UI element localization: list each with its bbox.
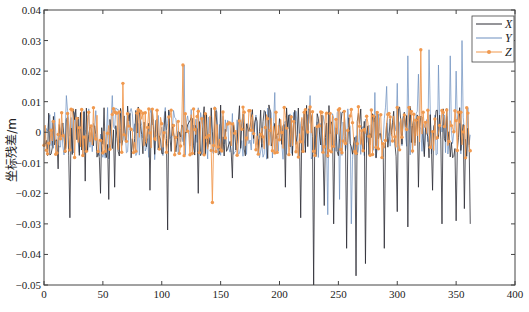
y-tick-label: 0.01: [22, 96, 41, 108]
y-tick-label: −0.01: [16, 157, 41, 169]
series-layer: [42, 41, 472, 285]
y-tick-label: −0.05: [16, 279, 42, 291]
legend-label-x: X: [504, 17, 513, 31]
x-tick-label: 200: [271, 288, 288, 300]
x-tick-label: 50: [97, 288, 109, 300]
x-tick-label: 350: [448, 288, 465, 300]
y-tick-label: −0.02: [16, 187, 41, 199]
y-tick-label: 0.04: [22, 4, 42, 16]
x-tick-label: 250: [330, 288, 347, 300]
y-tick-label: 0: [36, 126, 42, 138]
legend-marker-z: [487, 50, 491, 54]
y-tick-label: −0.03: [16, 218, 42, 230]
y-tick-label: −0.04: [16, 248, 42, 260]
y-axis-label: 坐标残差/m: [5, 118, 19, 182]
y-tick-label: 0.02: [22, 65, 41, 77]
legend-label-z: Z: [505, 45, 512, 59]
y-axis-ticks: 0.040.030.020.010−0.01−0.02−0.03−0.04−0.…: [16, 4, 515, 291]
plot-frame: [44, 10, 515, 285]
residual-line-chart: 050100150200250300350400 0.040.030.020.0…: [0, 0, 529, 312]
x-tick-label: 300: [389, 288, 406, 300]
x-tick-label: 150: [212, 288, 229, 300]
x-tick-label: 0: [41, 288, 47, 300]
y-tick-label: 0.03: [22, 35, 42, 47]
x-tick-label: 400: [507, 288, 524, 300]
x-tick-label: 100: [154, 288, 171, 300]
legend: X Y Z: [472, 16, 514, 62]
